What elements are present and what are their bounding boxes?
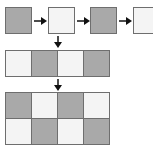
middle-cell-3 — [57, 50, 84, 77]
middle-cell-2 — [31, 50, 58, 77]
grid-cell-1-4 — [83, 92, 110, 119]
grid-cell-2-2 — [31, 118, 58, 145]
top-square-4 — [133, 7, 153, 34]
middle-cell-1 — [5, 50, 32, 77]
grid-cell-2-3 — [57, 118, 84, 145]
top-square-1 — [5, 7, 32, 34]
arrow-down-icon — [53, 36, 63, 48]
top-square-2 — [48, 7, 75, 34]
middle-cell-4 — [83, 50, 110, 77]
grid-cell-2-4 — [83, 118, 110, 145]
top-square-3 — [90, 7, 117, 34]
grid-cell-1-1 — [5, 92, 32, 119]
grid-cell-2-1 — [5, 118, 32, 145]
arrow-right-icon — [34, 16, 47, 26]
arrow-down-icon — [53, 79, 63, 91]
arrow-right-icon — [77, 16, 90, 26]
arrow-right-icon — [119, 16, 132, 26]
grid-cell-1-2 — [31, 92, 58, 119]
grid-cell-1-3 — [57, 92, 84, 119]
